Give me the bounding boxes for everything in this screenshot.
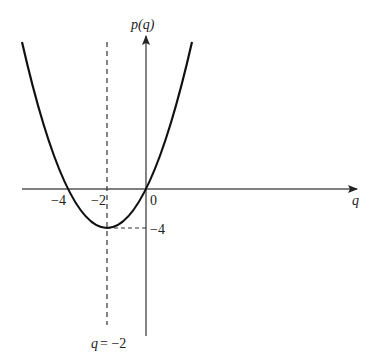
x-tick-label-neg4: −4 [51,193,66,208]
y-tick-label-neg4: −4 [150,222,165,237]
parabola-diagram: p(q) q −4 −2 0 −4 q= −2 [0,0,380,364]
axis-of-symmetry-label: q= −2 [91,336,126,351]
x-tick-label-neg2: −2 [91,193,106,208]
y-axis-label: p(q) [130,17,155,33]
x-tick-label-zero: 0 [150,193,157,208]
x-axis-label: q [352,193,359,208]
